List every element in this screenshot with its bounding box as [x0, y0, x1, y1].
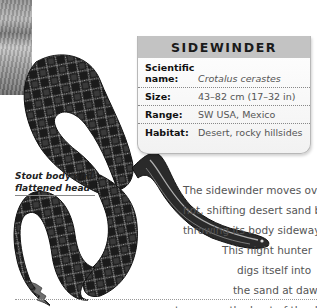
fact-label: Range:	[145, 109, 198, 120]
fact-value: SW USA, Mexico	[198, 109, 275, 120]
body-line: to escape the heat of the day.	[175, 300, 317, 308]
fact-box: SIDEWINDER Scientific name: Crotalus cer…	[137, 36, 311, 154]
fact-label-line1: Scientific	[145, 62, 198, 73]
fact-row-range: Range: SW USA, Mexico	[138, 106, 310, 124]
body-line: throwing its body sideways.	[180, 220, 317, 240]
caption-line-2: flattened head	[15, 182, 115, 194]
fact-box-title: SIDEWINDER	[138, 36, 310, 58]
fact-label: Habitat:	[145, 127, 198, 138]
fact-value: 43–82 cm (17–32 in)	[198, 91, 295, 102]
body-line: hot, shifting desert sand by	[180, 200, 317, 220]
fact-label: Size:	[145, 91, 198, 102]
fact-value: Desert, rocky hillsides	[198, 127, 303, 138]
fact-row-size: Size: 43–82 cm (17–32 in)	[138, 88, 310, 106]
body-line: This night hunter	[180, 240, 317, 260]
fact-label-line2: name:	[145, 73, 198, 84]
fact-row-scientific-name: Scientific name: Crotalus cerastes	[138, 58, 310, 88]
fact-label: Scientific name:	[145, 62, 198, 84]
body-line: digs itself into	[180, 260, 317, 280]
fact-row-habitat: Habitat: Desert, rocky hillsides	[138, 124, 310, 141]
caption-leader-line	[15, 195, 95, 196]
caption-line-1: Stout body and	[15, 170, 115, 182]
dotted-divider	[15, 299, 317, 300]
body-paragraph: The sidewinder moves over hot, shifting …	[180, 180, 317, 308]
body-line: The sidewinder moves over	[180, 180, 317, 200]
body-line: the sand at dawn	[180, 280, 317, 300]
image-caption: Stout body and flattened head	[15, 170, 115, 194]
fact-value: Crotalus cerastes	[198, 73, 281, 84]
